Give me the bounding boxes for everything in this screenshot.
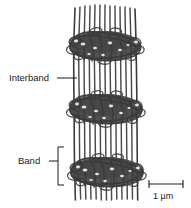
interband-label: Interband — [9, 72, 49, 83]
figure-canvas: Interband Band 1 µm — [0, 0, 191, 208]
micrograph-figure: Interband Band 1 µm — [0, 0, 191, 208]
scale-bar-label: 1 µm — [153, 191, 173, 201]
band-label: Band — [18, 155, 40, 166]
